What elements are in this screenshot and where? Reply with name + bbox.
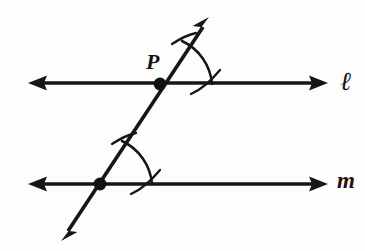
line-label-l: ℓ bbox=[340, 68, 351, 94]
point-label-P: P bbox=[146, 51, 159, 73]
tick-arc-lower-line bbox=[131, 170, 160, 194]
geometry-figure: P ℓ m bbox=[0, 0, 365, 251]
point-P-dot bbox=[154, 78, 167, 91]
geometry-canvas bbox=[0, 0, 365, 251]
line-l-group bbox=[28, 76, 328, 91]
transversal-shaft bbox=[68, 27, 203, 231]
angle-arc-lower bbox=[122, 141, 152, 184]
line-m-group bbox=[28, 177, 328, 192]
point-lower-intersection-dot bbox=[94, 178, 107, 191]
angle-arc-upper bbox=[182, 41, 212, 84]
line-label-m: m bbox=[337, 169, 355, 192]
transversal-group bbox=[61, 17, 209, 241]
